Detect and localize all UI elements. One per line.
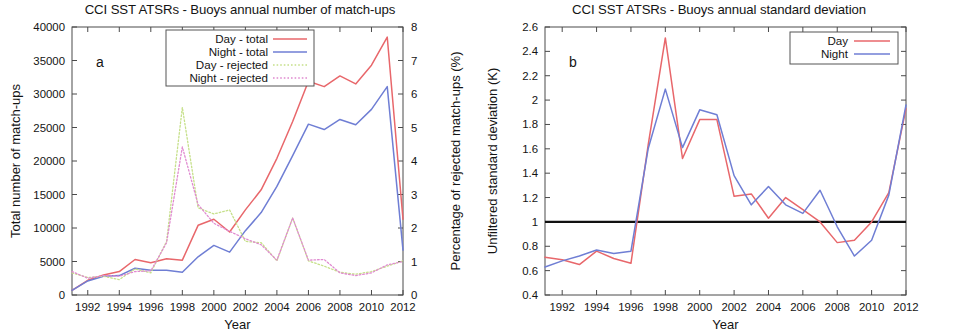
y-tick-label-left: 2.2 <box>522 70 538 82</box>
y-tick-label-left: 0 <box>59 289 65 301</box>
y-tick-label-right: 8 <box>411 21 417 33</box>
chart-b-plot: 1992199419961998200020022004200620082010… <box>479 0 959 332</box>
y-tick-label-right: 3 <box>411 189 417 201</box>
y-tick-label-left: 1.6 <box>522 143 538 155</box>
y-tick-label-left: 0.8 <box>522 240 538 252</box>
y-tick-label-right: 4 <box>411 155 417 167</box>
legend-label-a-0: Day - total <box>215 32 268 45</box>
x-tick-label: 2012 <box>390 301 415 313</box>
y-axis-label-right-a: Percentage of rejected match-ups (%) <box>448 52 463 271</box>
y-tick-label-right: 0 <box>411 289 417 301</box>
y-tick-label-left: 0.4 <box>522 289 538 301</box>
x-tick-label: 2012 <box>893 301 918 313</box>
x-tick-label: 2008 <box>327 301 352 313</box>
panel-letter-a: a <box>96 54 104 70</box>
y-tick-label-left: 2.4 <box>522 45 538 57</box>
x-tick-label: 1992 <box>550 301 575 313</box>
x-tick-label: 2004 <box>756 301 781 313</box>
x-tick-label: 2006 <box>790 301 815 313</box>
y-tick-label-right: 6 <box>411 88 417 100</box>
x-tick-label: 2000 <box>687 301 712 313</box>
y-tick-label-right: 2 <box>411 222 417 234</box>
y-tick-label-left: 20000 <box>33 155 65 167</box>
x-tick-label: 1996 <box>618 301 643 313</box>
y-tick-label-left: 40000 <box>33 21 65 33</box>
y-tick-label-left: 1 <box>532 216 538 228</box>
legend-label-a-2: Day - rejected <box>196 58 268 71</box>
legend-label-a-1: Night - total <box>209 45 268 58</box>
x-tick-label: 1992 <box>75 301 100 313</box>
y-tick-label-right: 1 <box>411 256 417 268</box>
figure-two-panel-line-charts: CCI SST ATSRs - Buoys annual number of m… <box>0 0 959 332</box>
series-line-2 <box>72 107 403 279</box>
x-tick-label: 2002 <box>721 301 746 313</box>
x-tick-label: 2004 <box>264 301 289 313</box>
y-tick-label-left: 0.6 <box>522 265 538 277</box>
y-tick-label-left: 35000 <box>33 55 65 67</box>
panel-letter-b: b <box>569 54 577 70</box>
legend-label-b-1: Night <box>821 47 849 60</box>
x-tick-label: 2000 <box>201 301 226 313</box>
x-tick-label: 1994 <box>107 301 132 313</box>
x-axis-label-b: Year <box>712 317 739 332</box>
y-axis-label-b: Unfiltered standard deviation (K) <box>485 68 500 254</box>
y-axis-label-left-a: Total number of match-ups <box>8 84 23 238</box>
y-tick-label-left: 30000 <box>33 88 65 100</box>
x-tick-label: 1998 <box>170 301 195 313</box>
y-tick-label-right: 5 <box>411 122 417 134</box>
series-line-3 <box>72 147 403 278</box>
y-tick-label-left: 1.4 <box>522 167 538 179</box>
chart-panel-a: CCI SST ATSRs - Buoys annual number of m… <box>0 0 480 332</box>
x-axis-label-a: Year <box>224 317 251 332</box>
x-tick-label: 2006 <box>296 301 321 313</box>
x-tick-label: 2002 <box>233 301 258 313</box>
y-tick-label-left: 10000 <box>33 222 65 234</box>
chart-a-plot: 1992199419961998200020022004200620082010… <box>0 0 480 332</box>
legend-label-a-3: Night - rejected <box>189 71 268 84</box>
y-tick-label-left: 2 <box>532 94 538 106</box>
series-line-0 <box>545 38 906 265</box>
x-tick-label: 1994 <box>584 301 609 313</box>
y-tick-label-left: 5000 <box>40 256 65 268</box>
x-tick-label: 2010 <box>359 301 384 313</box>
y-tick-label-left: 25000 <box>33 122 65 134</box>
y-tick-label-right: 7 <box>411 55 417 67</box>
y-tick-label-left: 1.8 <box>522 118 538 130</box>
legend-label-b-0: Day <box>827 34 848 47</box>
chart-panel-b: CCI SST ATSRs - Buoys annual standard de… <box>479 0 959 332</box>
series-line-1 <box>72 87 403 291</box>
x-tick-label: 1998 <box>653 301 678 313</box>
x-tick-label: 2008 <box>825 301 850 313</box>
y-tick-label-left: 2.6 <box>522 21 538 33</box>
x-tick-label: 2010 <box>859 301 884 313</box>
x-tick-label: 1996 <box>138 301 163 313</box>
y-tick-label-left: 1.2 <box>522 192 538 204</box>
y-tick-label-left: 15000 <box>33 189 65 201</box>
